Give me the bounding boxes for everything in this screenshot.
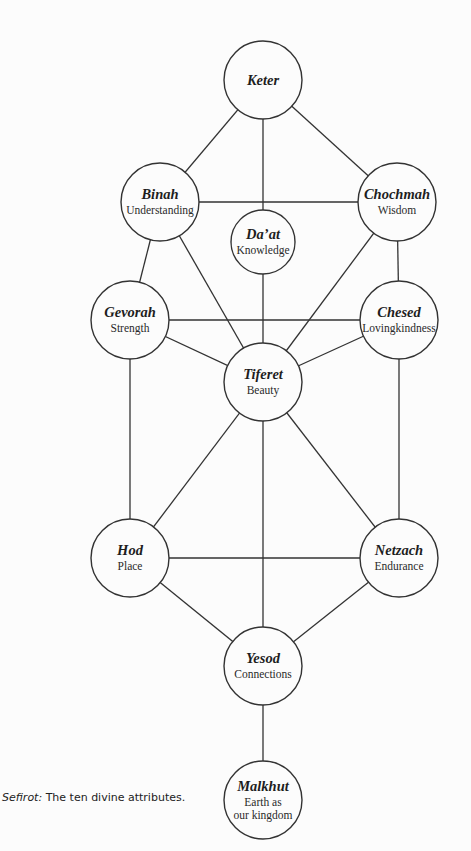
node-title: Binah <box>140 186 178 202</box>
node-subtitle: Lovingkindness <box>362 322 436 335</box>
node-title: Chochmah <box>364 186 430 202</box>
node-title: Malkhut <box>236 778 290 794</box>
node-title: Netzach <box>374 542 423 558</box>
node-title: Keter <box>246 72 280 88</box>
node-keter: Keter <box>224 41 302 119</box>
node-chochmah: ChochmahWisdom <box>358 163 436 241</box>
node-subtitle: Endurance <box>374 560 423 572</box>
node-subtitle: Knowledge <box>236 244 289 257</box>
caption-text: The ten divine attributes. <box>42 791 185 804</box>
node-subtitle: Earth as <box>244 796 282 808</box>
figure-caption: Sefirot: The ten divine attributes. <box>2 791 185 804</box>
node-subtitle: Connections <box>234 668 292 680</box>
node-malkhut: MalkhutEarth asour kingdom <box>224 761 302 839</box>
sefirot-diagram: KeterBinahUnderstandingChochmahWisdomDa’… <box>0 0 471 851</box>
node-hod: HodPlace <box>91 519 169 597</box>
node-title: Hod <box>116 542 144 558</box>
node-title: Gevorah <box>104 304 156 320</box>
node-subtitle: Wisdom <box>378 204 417 216</box>
node-netzach: NetzachEndurance <box>360 519 438 597</box>
node-subtitle: Beauty <box>247 384 280 397</box>
node-title: Da’at <box>245 226 281 242</box>
node-gevorah: GevorahStrength <box>91 281 169 359</box>
caption-term: Sefirot: <box>2 791 42 804</box>
node-tiferet: TiferetBeauty <box>224 343 302 421</box>
sefirot-nodes: KeterBinahUnderstandingChochmahWisdomDa’… <box>91 41 438 839</box>
node-title: Yesod <box>246 650 281 666</box>
node-subtitle: Place <box>118 560 143 572</box>
node-subtitle: Understanding <box>126 204 194 217</box>
node-chesed: ChesedLovingkindness <box>360 281 438 359</box>
node-title: Tiferet <box>243 366 284 382</box>
node-binah: BinahUnderstanding <box>121 163 199 241</box>
node-title: Chesed <box>377 304 421 320</box>
node-yesod: YesodConnections <box>224 627 302 705</box>
node-subtitle: our kingdom <box>233 809 292 822</box>
node-daat: Da’atKnowledge <box>231 210 295 274</box>
node-subtitle: Strength <box>111 322 150 335</box>
